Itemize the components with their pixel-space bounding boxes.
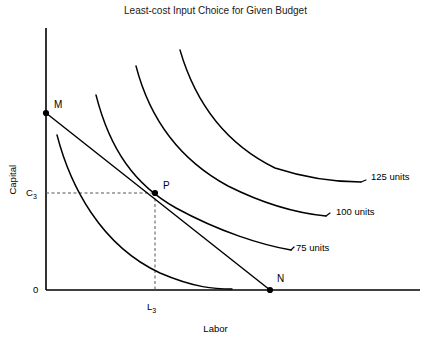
- y-axis-title: Capital: [8, 150, 18, 210]
- point-label-n: N: [277, 274, 284, 284]
- leader-isoquant-100: [326, 213, 330, 216]
- point-marker-m: [43, 110, 49, 116]
- curve-isoquant-75: [96, 95, 291, 250]
- point-marker-n: [267, 287, 273, 293]
- axis-tick-c3-base: C: [26, 187, 33, 198]
- axis-tick-origin: 0: [33, 285, 38, 295]
- curve-label-75-units: 75 units: [296, 243, 329, 253]
- curve-isoquant-unlabeled: [57, 135, 232, 289]
- curve-isoquant-125: [180, 50, 361, 182]
- curve-isoquant-100: [136, 66, 326, 216]
- point-label-m: M: [54, 100, 62, 110]
- point-label-p: P: [163, 181, 170, 191]
- curve-budget-line: [46, 113, 270, 290]
- axis-tick-c3-subscript: 3: [33, 193, 37, 200]
- isoquant-isocost-figure: Least-cost Input Choice for Given Budget…: [0, 0, 431, 344]
- curve-label-125-units: 125 units: [371, 172, 410, 182]
- leader-isoquant-75: [291, 247, 294, 250]
- axis-tick-l3-subscript: 3: [152, 307, 156, 314]
- curve-label-100-units: 100 units: [336, 207, 375, 217]
- x-axis-title: Labor: [0, 324, 431, 334]
- point-marker-p: [152, 190, 158, 196]
- leader-isoquant-125: [361, 180, 366, 182]
- axis-tick-l3: L3: [147, 302, 156, 314]
- curve-group: [46, 50, 361, 290]
- guide-lines: [46, 193, 155, 290]
- plot-area: [0, 0, 431, 344]
- axis-tick-c3: C3: [26, 188, 37, 200]
